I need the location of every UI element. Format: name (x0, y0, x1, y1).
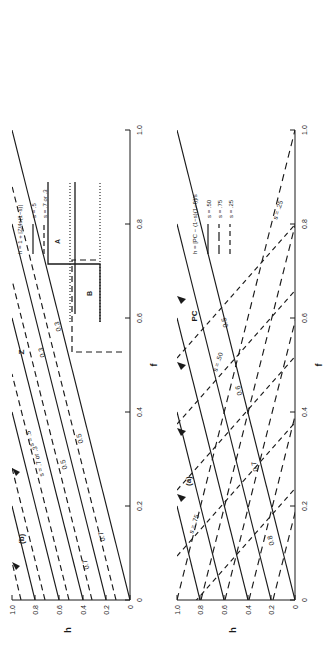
x-tick-label: 0.8 (136, 219, 143, 229)
x-tick-label: 0 (301, 598, 308, 602)
panel-b-x-ticklabels: 0 0.2 0.4 0.6 0.8 1.0 (136, 125, 143, 602)
y-tick-label: 0.4 (245, 605, 252, 615)
x-tick-label: 1.0 (136, 125, 143, 135)
inline-label-s50: s = .50 (211, 351, 224, 372)
y-tick-label: 0.6 (56, 605, 63, 615)
panel-b-legend: h = 1 + |Z/4s(1−s)| s = .5 s = .7 or .3 (17, 189, 48, 254)
y-tick-label: 0.6 (221, 605, 228, 615)
contour-label: 0.5 (59, 459, 68, 470)
panel-a-y-ticklabels: 0 0.2 0.4 0.6 0.8 1.0 (174, 605, 299, 615)
contour-label: 0.5 (75, 433, 84, 444)
x-tick-label: 0.8 (301, 219, 308, 229)
panel-b-y-ticklabels: 0 0.2 0.4 0.6 0.8 1.0 (9, 605, 134, 615)
panel-a-svg: 0.5 0.6 0.7 0.8 s = .50 s = .75 s = .25 … (165, 0, 330, 652)
panel-a-plot: 0.5 0.6 0.7 0.8 s = .50 s = .75 s = .25 … (165, 0, 330, 652)
panel-a-legend-entry-2: s = .25 (228, 199, 234, 218)
x-tick-label: 1.0 (301, 125, 308, 135)
panel-a-quantity-label: PC (190, 310, 199, 321)
inline-label-s5: s = .5 (24, 430, 35, 448)
panel-a-legend-entry-1: s = .75 (217, 199, 223, 218)
contour-label: 0.8 (266, 535, 275, 546)
panel-b-y-axis-label: h (63, 627, 73, 633)
inline-label-s25: s = .25 (271, 199, 284, 220)
panel-b-legend-entry-0: s = .5 (31, 202, 37, 218)
y-tick-label: 0.8 (32, 605, 39, 615)
panel-b-quantity-label: Z (17, 349, 26, 354)
y-tick-label: 0.2 (268, 605, 275, 615)
panel-a-legend: h = [PC − (1−s)(1−f)]/s s = .50 s = .75 … (192, 194, 234, 254)
panel-a-tag: (a) (184, 476, 193, 486)
x-tick-label: 0.2 (301, 501, 308, 511)
panel-b-tag: (b) (17, 533, 26, 544)
x-tick-label: 0.4 (136, 407, 143, 417)
panel-b-curves-solid (12, 130, 130, 600)
y-tick-label: 0.8 (197, 605, 204, 615)
panel-b-contour-labels-dashed: 0.3 0.5 0.7 (37, 347, 90, 570)
figure-sheet: 0.3 0.5 0.7 0.3 0.5 0.7 s = .5 s = .7 or… (0, 0, 330, 652)
y-tick-label: 1.0 (9, 605, 16, 615)
y-tick-label: 0 (127, 605, 134, 609)
x-tick-label: 0.6 (136, 313, 143, 323)
panel-b-legend-entry-1: s = .7 or .3 (42, 189, 48, 218)
contour-label: 0.7 (97, 531, 106, 542)
panel-b-svg: 0.3 0.5 0.7 0.3 0.5 0.7 s = .5 s = .7 or… (0, 0, 165, 652)
x-tick-label: 0.6 (301, 313, 308, 323)
panel-b-contour-labels-solid: 0.3 0.5 0.7 (53, 321, 106, 542)
panel-b: 0.3 0.5 0.7 0.3 0.5 0.7 s = .5 s = .7 or… (0, 0, 165, 652)
contour-label: 0.3 (37, 347, 46, 358)
panel-b-legend-formula: h = 1 + |Z/4s(1−s)| (17, 205, 23, 254)
panel-a-arrowheads (177, 296, 186, 502)
contour-label: 0.5 (220, 317, 229, 328)
panel-b-plot: 0.3 0.5 0.7 0.3 0.5 0.7 s = .5 s = .7 or… (0, 0, 165, 652)
inline-label-s75: s = .75 (187, 513, 200, 534)
x-tick-label: 0.2 (136, 501, 143, 511)
contour-label: 0.7 (81, 559, 90, 570)
panel-a-y-axis-label: h (228, 627, 238, 633)
panel-a-x-ticklabels: 0 0.2 0.4 0.6 0.8 1.0 (301, 125, 308, 602)
inset-region-label-b: B (86, 291, 93, 296)
contour-label: 0.7 (250, 461, 259, 472)
inline-label-s7or3: s = .7 or .3 (31, 445, 45, 477)
panel-a-legend-formula: h = [PC − (1−s)(1−f)]/s (192, 194, 198, 254)
y-tick-label: 0.2 (103, 605, 110, 615)
inset-region-label-a: A (54, 239, 61, 244)
panel-a-legend-entry-0: s = .50 (206, 199, 212, 218)
y-tick-label: 0.4 (80, 605, 87, 615)
y-tick-label: 1.0 (174, 605, 181, 615)
x-tick-label: 0.4 (301, 407, 308, 417)
panel-a-x-axis-label: f (314, 363, 324, 367)
panel-b-x-axis-label: f (149, 363, 159, 367)
panel-a-curves-s25 (177, 130, 323, 600)
panel-a: 0.5 0.6 0.7 0.8 s = .50 s = .75 s = .25 … (165, 0, 330, 652)
y-tick-label: 0 (292, 605, 299, 609)
x-tick-label: 0 (136, 598, 143, 602)
